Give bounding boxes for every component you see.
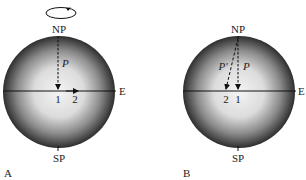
point-1-label: 1	[55, 93, 61, 105]
vector-label-p: P	[61, 57, 69, 69]
panel-label-b: B	[183, 167, 190, 179]
panel-label-a: A	[4, 167, 12, 179]
earth-sphere	[183, 36, 295, 148]
north-pole-label: NP	[52, 23, 66, 35]
earth-sphere	[3, 36, 115, 148]
point-1-label: 1	[235, 93, 241, 105]
vector-label-p-prime: P'	[217, 60, 228, 72]
east-label: E	[298, 85, 305, 97]
rotation-arrow-icon	[46, 8, 76, 19]
south-pole-label: SP	[232, 152, 244, 164]
panel-b: NP P P' 2 1 E SP B	[183, 23, 305, 179]
point-2-label: 2	[72, 93, 78, 105]
panel-a: NP P 1 2 E SP A	[3, 8, 126, 180]
north-pole-label: NP	[231, 23, 245, 35]
diagram-canvas: NP P 1 2 E SP A NP P P' 2 1 E SP B	[0, 0, 306, 180]
point-2-label: 2	[223, 93, 229, 105]
south-pole-label: SP	[53, 152, 65, 164]
east-label: E	[119, 85, 126, 97]
vector-label-p: P	[242, 60, 250, 72]
